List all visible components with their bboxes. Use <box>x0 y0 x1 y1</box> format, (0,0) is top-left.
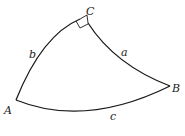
side-b-arc <box>16 19 80 100</box>
side-label-b: b <box>29 48 36 61</box>
vertex-label-a: A <box>3 104 12 117</box>
vertex-label-c: C <box>86 5 95 18</box>
side-a-arc <box>88 23 170 86</box>
side-c-arc <box>16 86 170 111</box>
side-label-a: a <box>121 46 128 59</box>
vertex-label-b: B <box>171 82 180 95</box>
spherical-triangle-diagram: A B C a b c <box>0 0 185 136</box>
side-label-c: c <box>110 110 116 123</box>
